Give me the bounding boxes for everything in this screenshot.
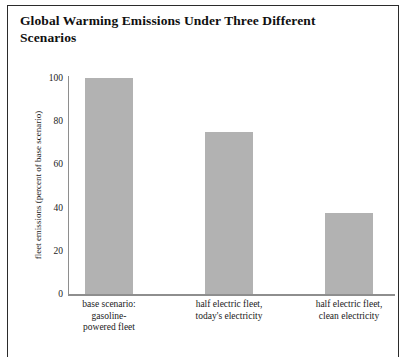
y-tick-label: 20 [30,246,63,256]
y-tick-label: 40 [30,203,63,213]
bar-half-electric-today[interactable] [205,132,253,294]
y-tick-80: 80 [30,116,63,126]
x-axis-line [68,294,395,296]
x-axis-label-line: today's electricity [196,311,263,321]
x-axis-label-base-scenario: base scenario:gasoline-powered fleet [49,299,169,334]
y-tick-0: 0 [30,289,63,299]
x-axis-label-line: half electric fleet, [316,299,383,309]
y-tick-label: 100 [30,73,63,83]
y-tick-label: 80 [30,116,63,126]
y-tick-100: 100 [30,73,63,83]
y-tick-40: 40 [30,203,63,213]
x-axis-label-half-electric-today: half electric fleet,today's electricity [169,299,289,322]
bar-base-scenario[interactable] [85,78,133,294]
y-tick-20: 20 [30,246,63,256]
x-axis-label-line: powered fleet [83,322,135,332]
x-axis-label-line: base scenario: [82,299,136,309]
plot-area: fleet emissions (percent of base scenari… [0,0,411,357]
x-axis-label-line: clean electricity [319,311,379,321]
x-axis-label-line: gasoline- [92,311,127,321]
x-axis-label-half-electric-clean: half electric fleet,clean electricity [289,299,409,322]
y-axis-line [68,76,69,295]
y-axis-title: fleet emissions (percent of base scenari… [33,75,43,295]
x-axis-label-line: half electric fleet, [196,299,263,309]
y-tick-label: 0 [30,289,63,299]
bar-half-electric-clean[interactable] [325,213,373,294]
y-tick-60: 60 [30,159,63,169]
y-tick-label: 60 [30,159,63,169]
